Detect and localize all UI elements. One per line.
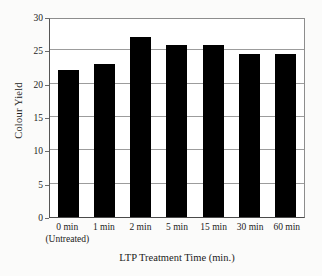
x-axis-tick-label: 30 min <box>232 221 269 233</box>
x-axis-tick-label: 5 min <box>159 221 196 233</box>
x-axis-tick-sublabel: (Untreated) <box>45 233 89 245</box>
bar-chart-figure: Colour Yield 051015202530 0 min(Untreate… <box>0 0 322 276</box>
y-axis-tick-label: 30 <box>34 13 44 23</box>
x-axis-tick-label: 0 min <box>49 221 86 233</box>
bars-container <box>50 19 304 217</box>
x-axis-tick-label: 2 min <box>122 221 159 233</box>
y-axis-tick-label: 5 <box>38 180 43 190</box>
x-axis-tick-label: 15 min <box>195 221 232 233</box>
bar-slot <box>50 19 86 217</box>
y-axis-title: Colour Yield <box>10 0 26 220</box>
x-axis-tick-slot: 15 min <box>195 221 232 233</box>
bar <box>58 70 79 217</box>
y-axis-tick-label: 10 <box>34 146 44 156</box>
x-axis-title: LTP Treatment Time (min.) <box>49 252 305 263</box>
bar <box>166 45 187 217</box>
bar <box>203 45 224 217</box>
x-axis-tick-slot: 60 min <box>268 221 305 233</box>
x-axis-tick-label: 1 min <box>86 221 123 233</box>
x-axis-tick-label: 60 min <box>268 221 305 233</box>
x-axis-tick-labels: 0 min(Untreated)1 min2 min5 min15 min30 … <box>49 221 305 233</box>
y-axis-tick-label: 25 <box>34 46 44 56</box>
bar <box>275 54 296 217</box>
y-axis-tick-labels: 051015202530 <box>26 13 43 218</box>
bar-slot <box>86 19 122 217</box>
y-axis-tick-label: 15 <box>34 113 44 123</box>
y-axis-tick-label: 20 <box>34 80 44 90</box>
x-axis-tick-slot: 1 min <box>86 221 123 233</box>
bar-slot <box>123 19 159 217</box>
bar-slot <box>231 19 267 217</box>
y-axis-tick-label: 0 <box>38 213 43 223</box>
x-axis-tick-slot: 2 min <box>122 221 159 233</box>
bar-slot <box>195 19 231 217</box>
x-axis-tick-slot: 5 min <box>159 221 196 233</box>
x-axis-tick-slot: 30 min <box>232 221 269 233</box>
plot-area <box>49 18 305 218</box>
y-axis-title-text: Colour Yield <box>13 82 24 139</box>
bar <box>239 54 260 217</box>
bar <box>130 37 151 217</box>
y-axis-tick-mark <box>45 218 49 219</box>
bar-slot <box>159 19 195 217</box>
x-axis-tick-slot: 0 min(Untreated) <box>49 221 86 233</box>
bar-slot <box>268 19 304 217</box>
bar <box>94 64 115 217</box>
